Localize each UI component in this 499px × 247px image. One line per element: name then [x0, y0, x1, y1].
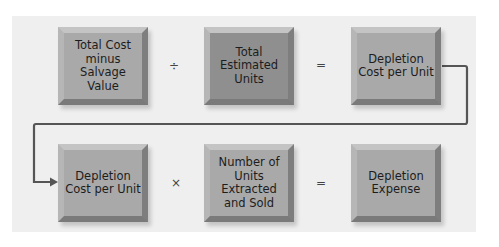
box-label: Number of Units Extracted and Sold — [210, 156, 288, 210]
box-total-estimated-units: Total Estimated Units — [204, 27, 294, 105]
box-depletion-cost-per-unit: Depletion Cost per Unit — [58, 144, 148, 222]
divide-operator: ÷ — [164, 59, 184, 73]
multiply-operator: × — [166, 176, 186, 190]
arrow-head-icon — [50, 178, 58, 187]
equals-operator: = — [311, 58, 331, 72]
box-total-cost-minus-salvage: Total Cost minus Salvage Value — [58, 27, 148, 105]
box-label: Depletion Cost per Unit — [64, 170, 142, 197]
box-depletion-cost-per-unit-result: Depletion Cost per Unit — [351, 27, 441, 105]
box-units-extracted-and-sold: Number of Units Extracted and Sold — [204, 144, 294, 222]
box-label: Total Estimated Units — [210, 46, 288, 87]
box-label: Depletion Expense — [357, 170, 435, 197]
box-label: Depletion Cost per Unit — [357, 53, 435, 80]
box-depletion-expense: Depletion Expense — [351, 144, 441, 222]
equals-operator: = — [311, 176, 331, 190]
box-label: Total Cost minus Salvage Value — [64, 39, 142, 93]
